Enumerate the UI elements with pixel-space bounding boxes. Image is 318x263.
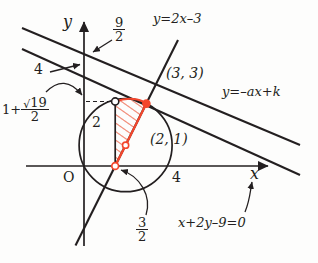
center-point-marker xyxy=(123,142,129,148)
label-line-steep: y=2x–3 xyxy=(153,12,202,25)
y-axis-label: y xyxy=(63,14,72,30)
label-intersection-point: (3, 3) xyxy=(166,66,204,80)
label-x-intercept-four: 4 xyxy=(172,170,181,184)
label-y-intercept-four: 4 xyxy=(34,62,43,76)
label-tangent-height: 1+ √19 2 xyxy=(2,96,49,124)
intersection-point-marker xyxy=(143,100,150,107)
leader-arrow-four xyxy=(50,65,80,73)
label-nine-halves: 9 2 xyxy=(113,16,125,44)
chord-foot-point-marker xyxy=(112,163,119,170)
line-x-plus-2y-minus-9 xyxy=(22,49,300,175)
leader-arrow-nine-halves xyxy=(93,40,112,52)
x-axis-label: x xyxy=(250,166,259,182)
label-circle-two: 2 xyxy=(92,115,101,129)
label-three-halves: 3 2 xyxy=(136,216,148,244)
label-line-family: y=–ax+k xyxy=(222,85,281,98)
label-center-point: (2, 1) xyxy=(150,132,188,146)
origin-label: O xyxy=(63,170,74,184)
label-line-given: x+2y–9=0 xyxy=(178,216,246,229)
leader-arrow-tangent-height xyxy=(46,83,82,95)
math-figure: y x O 9 2 4 1+ √19 2 2 3 2 xyxy=(0,0,318,263)
tangent-point-marker xyxy=(112,98,119,105)
leader-arrow-given-line xyxy=(245,182,252,212)
